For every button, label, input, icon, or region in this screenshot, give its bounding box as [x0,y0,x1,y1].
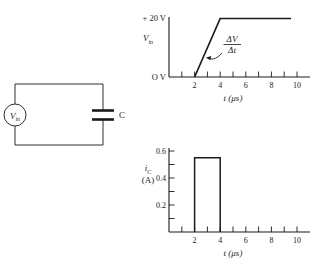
vin-y-label-20v: + 20 V [142,13,166,23]
vin-waveform-trace [195,19,291,78]
ic-x-tick-label-8: 8 [269,236,273,245]
vin-x-tick-label-6: 6 [244,81,248,90]
ic-x-tick-label-2: 2 [193,236,197,245]
figure-root: Vin C [0,0,324,269]
voltage-source-label: Vin [10,111,20,122]
vin-waveform-chart: 2 4 6 8 10 + 20 V O V Vin ΔV Δt [142,13,310,103]
vin-y-label-0v: O V [152,72,167,82]
rc-charging-circuit: Vin C [4,84,125,145]
vin-x-tick-label-8: 8 [269,81,273,90]
ic-x-tick-label-4: 4 [218,236,222,245]
vin-x-axis-title: t (μs) [224,93,243,103]
vin-x-tick-label-2: 2 [193,81,197,90]
capacitor-label: C [119,110,125,120]
vin-x-ticks [182,72,297,78]
ic-x-axis-title: t (μs) [224,248,243,258]
ic-y-tick-label-06: 0.6 [156,147,166,156]
ic-y-axis-unit: (A) [142,175,155,185]
ic-y-axis-title: iC [145,163,153,175]
ic-y-tick-label-02: 0.2 [156,201,166,210]
slope-numerator: ΔV [226,34,239,44]
vin-y-axis-title: Vin [143,33,153,45]
ic-x-ticks [182,227,297,233]
ic-pulse-trace [195,158,221,232]
ic-y-tick-label-04: 0.4 [156,174,166,183]
ic-x-tick-label-6: 6 [244,236,248,245]
slope-denominator: Δt [227,45,236,55]
figure-svg: Vin C [0,0,324,269]
vin-x-tick-label-10: 10 [293,81,301,90]
ic-y-ticks [169,151,175,219]
ic-waveform-chart: 0.6 0.4 0.2 iC (A) 2 [142,147,310,258]
vin-x-tick-label-4: 4 [218,81,222,90]
ic-x-tick-label-10: 10 [293,236,301,245]
